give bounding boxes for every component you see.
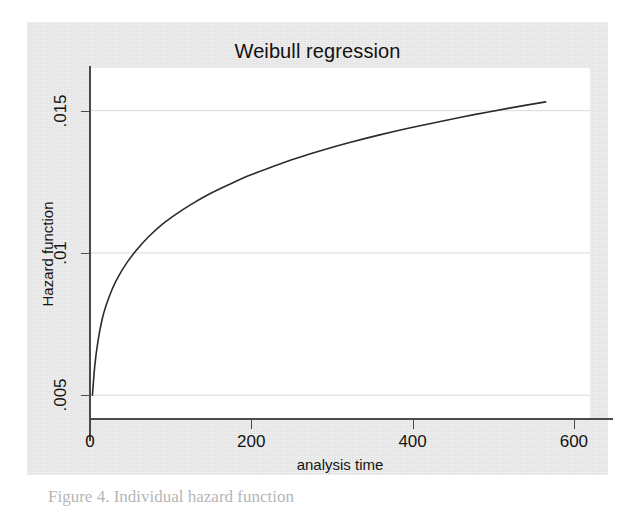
chart-title: Weibull regression (27, 40, 608, 63)
y-axis-title: Hazard function (39, 201, 56, 306)
x-tick-mark-1 (251, 420, 252, 429)
hazard-function-curve (92, 102, 545, 395)
x-axis-line (89, 418, 613, 420)
x-tick-mark-3 (574, 420, 575, 429)
plot-area (90, 68, 590, 418)
plot-canvas (90, 68, 590, 418)
x-tick-label-2: 400 (383, 432, 443, 452)
gridlines (90, 111, 590, 396)
x-tick-label-1: 200 (221, 432, 281, 452)
x-tick-mark-2 (413, 420, 414, 429)
y-axis-title-container: Hazard function (0, 66, 157, 441)
figure-caption: Figure 4. Individual hazard function (48, 487, 588, 506)
x-tick-label-3: 600 (544, 432, 604, 452)
figure-panel: Weibull regression .005.01.015 020040060… (27, 22, 608, 475)
x-axis-title: analysis time (90, 456, 590, 473)
